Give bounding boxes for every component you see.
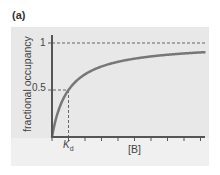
x-axis-label: [B] <box>128 143 141 155</box>
kd-label: Kd <box>63 139 74 152</box>
y-tick-half: 0.5 <box>32 82 46 93</box>
y-tick-1: 1 <box>40 37 46 48</box>
kd-sub: d <box>70 145 74 152</box>
occupancy-curve <box>52 52 205 137</box>
x-axis-band <box>11 138 209 166</box>
kd-main: K <box>63 139 70 150</box>
